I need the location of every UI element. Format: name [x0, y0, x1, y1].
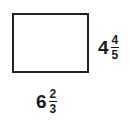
width-denominator: 3 [50, 102, 57, 115]
width-whole: 6 [36, 92, 47, 111]
height-fraction: 4 5 [111, 34, 120, 61]
width-numerator: 2 [49, 88, 58, 102]
rectangle-shape [12, 13, 89, 73]
height-numerator: 4 [111, 34, 120, 48]
height-label: 4 4 5 [98, 34, 119, 61]
width-label: 6 2 3 [36, 88, 57, 115]
width-fraction: 2 3 [49, 88, 58, 115]
height-whole: 4 [98, 38, 109, 57]
height-denominator: 5 [112, 48, 119, 61]
